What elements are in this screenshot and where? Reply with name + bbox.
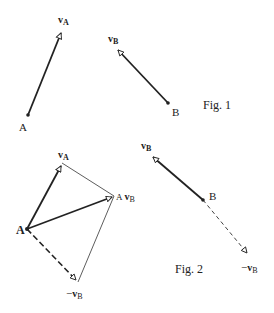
vector-subscript: B [146,144,151,153]
fig2-parallelogram-edge-right [78,196,114,282]
fig1-vector-vB [118,50,168,103]
vector-subscript: B [252,266,257,275]
fig1-point-A [26,113,30,117]
fig2-point-A [25,227,29,231]
fig2-vector-neg-vB-at-A [27,229,76,280]
fig1-label-B: B [172,107,179,118]
fig1-label-A: A [19,122,27,133]
fig2-vector-vB [153,157,203,200]
fig2-label-B: B [209,191,216,202]
fig1-group [26,33,170,117]
fig1-label-vB: vB [108,34,118,44]
vector-subscript: B [113,37,118,46]
fig2-vector-vA [27,166,61,229]
vector-subscript: B [77,292,82,301]
fig2-caption: Fig. 2 [175,263,203,275]
fig2-label-AvB: AvB [116,191,135,202]
relative-velocity-diagram: vA A vB B Fig. 1 vA A AvB −vB vB B −vB F… [0,0,274,313]
fig1-vector-vA [28,33,61,115]
vector-drawing [0,0,274,313]
fig2-label-neg-vB-at-A: −vB [66,288,83,299]
fig2-label-A: A [16,224,25,236]
vector-symbol: v [125,191,130,202]
vector-prefix: A [116,192,123,202]
fig1-label-vA: vA [58,15,69,25]
fig2-vector-AvB [27,197,112,229]
fig2-label-vA: vA [58,150,69,160]
fig2-parallelogram-edge-top [62,163,114,196]
vector-subscript: A [63,153,69,162]
vector-subscript: B [130,195,135,204]
vector-subscript: A [63,18,69,27]
fig2-label-neg-vB-at-B: −vB [241,262,258,273]
fig2-group [25,157,247,282]
fig1-point-B [166,101,170,105]
fig2-point-B [201,198,205,202]
fig2-label-vB: vB [141,141,151,151]
fig2-vector-neg-vB-at-B [203,200,247,253]
fig1-caption: Fig. 1 [203,99,231,111]
